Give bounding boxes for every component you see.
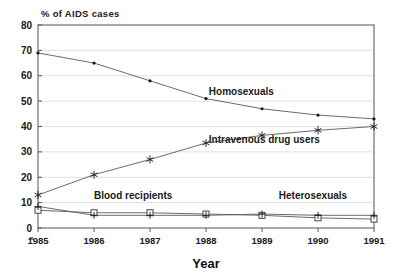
aids-cases-line-chart: 01020304050607080 1985198619871988198919…: [0, 0, 401, 280]
y-tick-label-70: 70: [21, 45, 33, 56]
x-tick-label-1988: 1988: [195, 235, 216, 246]
y-tick-label-10: 10: [21, 197, 33, 208]
y-tick-label-0: 0: [26, 223, 32, 234]
series-label-blood-recipients: Blood recipients: [94, 190, 173, 201]
marker-intravenous-drug-users-1985: [35, 191, 42, 199]
x-tick-label-1987: 1987: [139, 235, 160, 246]
y-tick-label-50: 50: [21, 96, 33, 107]
x-axis: 1985198619871988198919901991: [27, 228, 385, 246]
marker-homosexuals-1987: [148, 79, 151, 82]
x-tick-label-1991: 1991: [363, 235, 385, 246]
y-axis-title: % of AIDS cases: [41, 8, 120, 19]
chart-container: 01020304050607080 1985198619871988198919…: [0, 0, 401, 280]
series-label-intravenous-drug-users: Intravenous drug users: [209, 134, 321, 145]
origin-break-icon: «: [29, 234, 34, 243]
marker-homosexuals-1990: [316, 113, 319, 116]
marker-intravenous-drug-users-1987: [147, 155, 154, 163]
x-tick-label-1989: 1989: [251, 235, 272, 246]
x-axis-title: Year: [192, 256, 219, 271]
x-tick-label-1990: 1990: [307, 235, 328, 246]
marker-homosexuals-1985: [36, 51, 39, 54]
series-line-homosexuals: [38, 53, 374, 119]
series-markers-intravenous-drug-users: [35, 123, 378, 200]
marker-homosexuals-1991: [372, 117, 375, 120]
y-tick-label-60: 60: [21, 70, 33, 81]
y-tick-label-30: 30: [21, 146, 33, 157]
series-label-homosexuals: Homosexuals: [209, 86, 274, 97]
x-tick-label-1986: 1986: [83, 235, 104, 246]
marker-homosexuals-1986: [92, 61, 95, 64]
series-label-heterosexuals: Heterosexuals: [279, 190, 348, 201]
marker-homosexuals-1988: [204, 97, 207, 100]
marker-homosexuals-1989: [260, 107, 263, 110]
gridlines: [38, 50, 374, 202]
y-tick-label-80: 80: [21, 20, 33, 31]
y-tick-label-20: 20: [21, 172, 33, 183]
y-tick-label-40: 40: [21, 121, 33, 132]
series-line-intravenous-drug-users: [38, 127, 374, 196]
series-labels: HomosexualsIntravenous drug usersBlood r…: [94, 86, 348, 201]
